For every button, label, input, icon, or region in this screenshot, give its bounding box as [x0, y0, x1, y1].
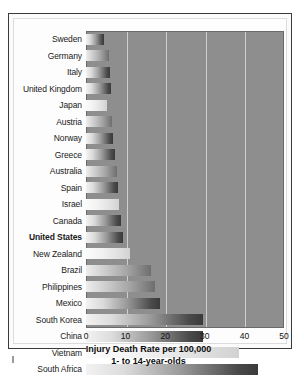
bar	[86, 116, 112, 127]
bar-row: Greece	[9, 147, 284, 164]
bar-label-south-korea: South Korea	[9, 315, 86, 325]
x-axis-title: Injury Death Rate per 100,000 1- to 14-y…	[9, 344, 288, 367]
bar-row: Israel	[9, 196, 284, 213]
bar-label-spain: Spain	[9, 183, 86, 193]
bar-track	[86, 48, 284, 65]
bar-label-mexico: Mexico	[9, 298, 86, 308]
bar	[86, 215, 121, 226]
bar-row: United States	[9, 229, 284, 246]
bar-label-israel: Israel	[9, 199, 86, 209]
bar-track	[86, 97, 284, 114]
bar	[86, 182, 118, 193]
bar-row: Australia	[9, 163, 284, 180]
bar-label-philippines: Philippines	[9, 282, 86, 292]
bar	[86, 281, 155, 292]
bar	[86, 34, 104, 45]
x-tick-0: 0	[84, 330, 89, 342]
bar-label-united-states: United States	[9, 232, 86, 242]
bar-track	[86, 64, 284, 81]
bar-label-canada: Canada	[9, 216, 86, 226]
bar-track	[86, 312, 284, 329]
bar-row: Norway	[9, 130, 284, 147]
bar-label-italy: Italy	[9, 67, 86, 77]
bar	[86, 248, 130, 259]
bar-row: Spain	[9, 180, 284, 197]
x-axis-title-line2: 1- to 14-year-olds	[9, 356, 288, 368]
bar-label-greece: Greece	[9, 150, 86, 160]
x-tick-20: 20	[160, 330, 169, 342]
bar-rows: SwedenGermanyItalyUnited KingdomJapanAus…	[9, 31, 284, 328]
bar-row: Brazil	[9, 262, 284, 279]
x-tick-40: 40	[240, 330, 249, 342]
x-tick-10: 10	[121, 330, 130, 342]
bar-label-united-kingdom: United Kingdom	[9, 84, 86, 94]
bar	[86, 50, 109, 61]
bar	[86, 83, 111, 94]
bar-track	[86, 246, 284, 263]
bar-row: Japan	[9, 97, 284, 114]
footnote-mark	[12, 356, 14, 363]
bar	[86, 149, 115, 160]
x-axis-title-line1: Injury Death Rate per 100,000	[9, 344, 288, 356]
chart-figure: SwedenGermanyItalyUnited KingdomJapanAus…	[8, 13, 292, 349]
bar-row: Sweden	[9, 31, 284, 48]
bar-track	[86, 279, 284, 296]
x-tick-50: 50	[279, 330, 288, 342]
bar-label-sweden: Sweden	[9, 34, 86, 44]
bar	[86, 100, 107, 111]
bar	[86, 166, 117, 177]
bar-track	[86, 114, 284, 131]
bar-track	[86, 147, 284, 164]
bar-row: Philippines	[9, 279, 284, 296]
bar-track	[86, 163, 284, 180]
bar-track	[86, 262, 284, 279]
bar-track	[86, 31, 284, 48]
bar-label-japan: Japan	[9, 100, 86, 110]
bar-row: South Korea	[9, 312, 284, 329]
bar-track	[86, 229, 284, 246]
bar	[86, 232, 123, 243]
bar-label-new-zealand: New Zealand	[9, 249, 86, 259]
bar	[86, 133, 113, 144]
bar-track	[86, 213, 284, 230]
bar-row: Canada	[9, 213, 284, 230]
bar-row: Austria	[9, 114, 284, 131]
bar	[86, 265, 151, 276]
bar-track	[86, 180, 284, 197]
bar	[86, 199, 119, 210]
bar-row: New Zealand	[9, 246, 284, 263]
bar-label-austria: Austria	[9, 117, 86, 127]
bar	[86, 67, 110, 78]
bar	[86, 314, 203, 325]
bar-row: Italy	[9, 64, 284, 81]
bar-track	[86, 196, 284, 213]
bar-label-norway: Norway	[9, 133, 86, 143]
x-tick-30: 30	[200, 330, 209, 342]
bar-track	[86, 295, 284, 312]
bar-label-germany: Germany	[9, 51, 86, 61]
bar-row: United Kingdom	[9, 81, 284, 98]
x-axis-ticks: 01020304050	[9, 330, 284, 344]
bar-row: Germany	[9, 48, 284, 65]
bar-label-brazil: Brazil	[9, 265, 86, 275]
bar	[86, 298, 160, 309]
bar-label-australia: Australia	[9, 166, 86, 176]
bar-track	[86, 81, 284, 98]
bar-track	[86, 130, 284, 147]
bar-row: Mexico	[9, 295, 284, 312]
